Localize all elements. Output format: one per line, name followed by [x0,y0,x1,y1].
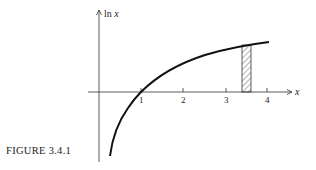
y-axis-label-fn: ln [104,8,112,19]
y-axis-label: ln x [104,8,119,19]
x-tick-label-2: 2 [181,95,186,105]
x-axis-label: x [294,86,300,97]
figure-caption: FIGURE 3.4.1 [6,145,71,156]
x-tick-label-1: 1 [139,95,144,105]
y-axis-label-var: x [113,8,119,19]
x-axis [88,88,292,95]
x-tick-label-4: 4 [265,95,270,105]
hatched-strip [242,45,251,92]
x-tick-label-3: 3 [224,95,229,105]
y-axis [97,10,102,162]
